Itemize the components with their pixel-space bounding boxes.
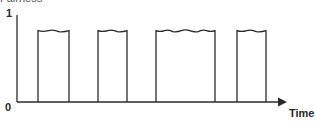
pulse-chart (0, 0, 315, 125)
y-tick-min: 0 (5, 102, 11, 113)
x-axis-label: Time (289, 108, 314, 119)
pulse-series (38, 30, 266, 102)
pulse-3 (156, 30, 215, 102)
y-tick-max: 1 (6, 8, 12, 19)
pulse-4 (237, 30, 266, 102)
x-axis-arrow-icon (278, 98, 287, 107)
pulse-1 (38, 30, 69, 102)
pulse-2 (98, 30, 127, 102)
